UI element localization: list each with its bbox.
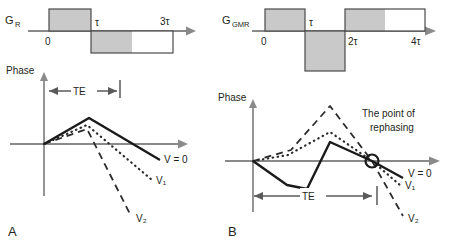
gradient-a-negative-lobe-gray-half [91,31,132,53]
gradient-a-tick-3tau: 3τ [160,16,170,27]
panel-b-phase-plot: Phase The point of rephasing TE V = 0 V₁… [218,92,440,224]
mri-gradient-phase-figure: G R 0 τ 3τ Phase TE V = 0 V₁ [0,0,450,247]
panel-a-phase-plot: Phase TE V = 0 V₁ V₂ [6,65,188,224]
phase-a-axis-label: Phase [6,65,35,76]
phase-a-curve-v1 [44,125,152,180]
gradient-b-tick-0: 0 [261,36,267,47]
gradient-a-label-subscript: R [15,20,21,29]
phase-a-te-label: TE [73,86,86,97]
phase-b-te-label: TE [302,191,315,202]
figure-canvas: G R 0 τ 3τ Phase TE V = 0 V₁ [0,0,450,247]
phase-b-label-v2: V₂ [408,213,419,224]
phase-b-te-arrow-left [254,192,263,200]
phase-b-label-v0: V = 0 [408,168,432,179]
phase-b-curve-v0 [253,142,403,189]
phase-a-te-arrow-right [108,87,117,95]
gradient-a-tick-0: 0 [45,36,51,47]
phase-a-label-v2: V₂ [136,213,147,224]
phase-b-annotation-line2: rephasing [370,122,414,133]
phase-a-curve-v2 [44,129,131,216]
phase-a-y-axis-arrowhead [40,72,48,81]
gradient-b-tick-4tau: 4τ [411,36,421,47]
phase-b-axis-label: Phase [218,92,247,103]
phase-b-label-v1: V₁ [405,180,416,191]
gradient-a-label: G [5,14,14,26]
panel-a-gradient: G R 0 τ 3τ [5,9,196,53]
phase-b-annotation-line1: The point of [362,108,415,119]
phase-a-curve-v0 [44,118,160,160]
gradient-b-tick-2tau: 2τ [348,36,358,47]
gradient-b-positive-lobe-1 [265,9,305,31]
phase-a-label-v1: V₁ [156,175,167,186]
phase-a-x-axis-arrowhead [178,140,188,149]
gradient-b-negative-lobe [305,31,345,71]
gradient-a-negative-lobe-white-half [132,31,173,53]
phase-b-te-arrow-right [363,192,372,200]
phase-a-label-v0: V = 0 [164,154,188,165]
phase-b-x-axis-arrowhead [429,157,440,166]
phase-b-y-axis-arrowhead [249,99,257,108]
phase-b-te-measure: TE [254,186,377,205]
gradient-a-positive-lobe [49,9,91,31]
panel-a-letter: A [8,224,17,239]
gradient-b-positive-lobe-2-white-half [385,9,425,31]
gradient-b-tick-tau: τ [309,17,313,28]
gradient-b-axis-arrowhead [425,27,436,36]
gradient-a-tick-tau: τ [95,17,99,28]
gradient-a-axis-arrowhead [186,27,196,36]
phase-a-te-measure: TE [49,80,120,98]
phase-a-te-arrow-left [49,87,58,95]
gradient-b-label-subscript: GMR [232,20,250,29]
gradient-b-label: G [222,14,231,26]
panel-b-gradient: G GMR 0 τ 2τ 4τ [222,9,436,71]
panel-b-letter: B [228,224,237,239]
gradient-b-positive-lobe-2-gray-half [345,9,385,31]
